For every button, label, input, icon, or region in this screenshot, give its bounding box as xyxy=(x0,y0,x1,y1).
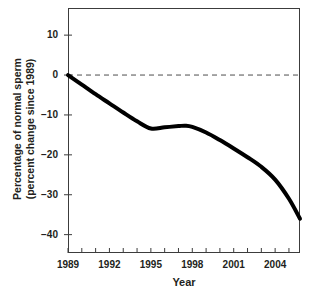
y-axis-ticks xyxy=(64,35,72,235)
x-axis-ticks xyxy=(68,248,289,253)
y-axis-title: Percentage of normal sperm (percent chan… xyxy=(11,21,37,237)
x-axis-tick-label: 1989 xyxy=(57,259,79,271)
x-axis-tick-label: 2004 xyxy=(264,259,286,271)
x-axis-tick-label-group: 198919921995199820012004 xyxy=(0,259,312,275)
x-axis-title: Year xyxy=(68,276,300,289)
chart-page: 100−10−20−30−40 198919921995199820012004… xyxy=(0,0,312,300)
data-series-line xyxy=(68,75,300,219)
x-axis-tick-label: 1995 xyxy=(140,259,162,271)
x-axis-tick-label: 2001 xyxy=(223,259,245,271)
x-axis-tick-label: 1998 xyxy=(181,259,203,271)
x-axis-tick-label: 1992 xyxy=(98,259,120,271)
